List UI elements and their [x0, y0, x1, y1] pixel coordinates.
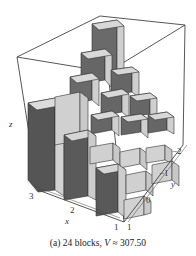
y-tick-neg2: −2	[172, 146, 182, 156]
x-tick-1: 1	[114, 222, 119, 232]
x-axis-label: x	[64, 216, 69, 226]
caption-value: ≈ 307.50	[110, 238, 146, 248]
figure-caption: (a) 24 blocks, V ≈ 307.50	[0, 238, 196, 248]
z-axis-label: z	[8, 119, 13, 129]
y-tick-1: 1	[127, 222, 132, 232]
y-tick-0: 0	[146, 195, 151, 205]
blocks	[28, 20, 179, 219]
caption-prefix: (a) 24 blocks,	[50, 238, 104, 248]
3d-block-plot: z 3 2 x 1 1 0 −1 y −2	[0, 0, 196, 232]
y-tick-neg1: −1	[159, 168, 169, 178]
x-tick-3: 3	[29, 191, 34, 201]
x-tick-2: 2	[70, 205, 75, 215]
y-axis-label: y	[170, 179, 175, 189]
